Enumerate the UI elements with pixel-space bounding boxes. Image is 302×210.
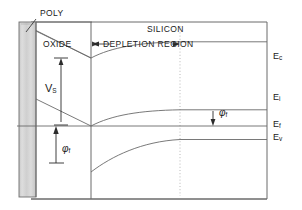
oxide-label: OXIDE (43, 40, 71, 49)
energy-level-label-ev: Ev (273, 133, 282, 143)
intrinsic-level-curve (36, 99, 267, 126)
phi-f-mid-subscript: f (226, 111, 228, 118)
poly-region (19, 22, 36, 197)
energy-level-label-ei: Ei (273, 93, 280, 103)
poly-label: POLY (40, 9, 64, 18)
phi-f-left-subscript: f (69, 147, 71, 154)
phi-f-left-label: φf (62, 139, 70, 155)
energy-level-label-ec: Ec (273, 52, 282, 62)
surface-potential-label: VS (45, 83, 57, 95)
valence-band-curve (36, 112, 267, 199)
silicon-label: SILICON (147, 25, 184, 34)
phi-f-mid-label: φf (219, 103, 227, 119)
band-diagram-figure: POLY OXIDE SILICON DEPLETION REGION Ec E… (0, 0, 302, 210)
vs-subscript: S (52, 87, 56, 94)
ef-subscript: f (279, 122, 281, 129)
energy-level-label-ef: Ef (273, 120, 281, 130)
ev-subscript: v (279, 135, 282, 142)
depletion-region-label: DEPLETION REGION (103, 40, 193, 49)
ec-subscript: c (279, 54, 282, 61)
ei-subscript: i (279, 95, 280, 102)
valence-band-tail (91, 172, 96, 199)
